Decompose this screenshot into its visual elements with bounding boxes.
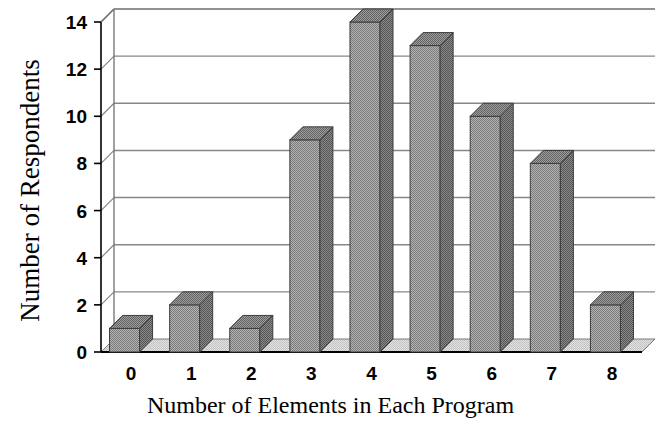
y-tick-label: 8 (76, 153, 87, 174)
bar (590, 292, 633, 352)
x-tick-label: 7 (547, 363, 558, 384)
x-tick-label: 6 (486, 363, 497, 384)
y-tick-label: 10 (66, 106, 87, 127)
bar (530, 150, 573, 352)
bar (410, 33, 453, 352)
bar (470, 103, 513, 352)
x-tick-label: 5 (426, 363, 437, 384)
x-tick-label: 2 (246, 363, 257, 384)
bar (350, 9, 393, 352)
x-tick-labels: 012345678 (126, 363, 617, 384)
y-tick-label: 14 (66, 12, 88, 33)
x-tick-label: 3 (306, 363, 317, 384)
x-tick-label: 0 (126, 363, 137, 384)
y-tick-label: 2 (76, 295, 87, 316)
y-tick-marks (94, 22, 101, 352)
y-tick-label: 4 (76, 248, 87, 269)
x-tick-label: 1 (186, 363, 197, 384)
y-tick-label: 12 (66, 59, 87, 80)
y-tick-label: 0 (76, 342, 87, 363)
bar-series (110, 9, 634, 352)
bar (170, 292, 213, 352)
plot-area: 02468101214 012345678 (0, 0, 661, 426)
bar (290, 127, 333, 352)
y-tick-labels: 02468101214 (66, 12, 88, 363)
x-tick-label: 4 (366, 363, 377, 384)
x-tick-label: 8 (607, 363, 618, 384)
y-tick-label: 6 (76, 201, 87, 222)
bar-chart: Number of Respondents Number of Elements… (0, 0, 661, 426)
